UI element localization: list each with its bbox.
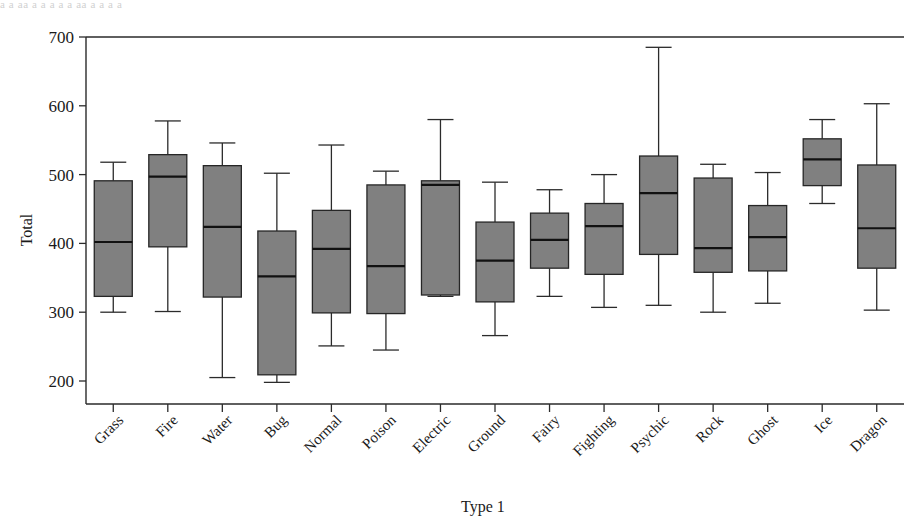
box-iqr — [258, 231, 296, 375]
x-tick-label-rock: Rock — [693, 411, 727, 445]
box-iqr — [858, 165, 896, 268]
x-tick-label-ice: Ice — [811, 412, 836, 437]
y-tick-label: 300 — [49, 303, 75, 322]
box-plot-item — [694, 164, 732, 312]
box-series — [94, 47, 895, 382]
box-iqr — [94, 181, 132, 297]
x-axis-title: Type 1 — [461, 498, 505, 516]
y-tick-label: 600 — [49, 97, 75, 116]
boxplot-canvas: 200300400500600700 GrassFireWaterBugNorm… — [0, 0, 918, 527]
x-tick-label-psychic: Psychic — [627, 412, 672, 457]
box-plot-item — [858, 104, 896, 310]
x-axis-tick-labels: GrassFireWaterBugNormalPoisonElectricGro… — [91, 411, 890, 459]
box-iqr — [421, 181, 459, 295]
box-plot-item — [312, 145, 350, 346]
x-tick-label-dragon: Dragon — [847, 411, 890, 454]
x-tick-label-ground: Ground — [464, 411, 508, 455]
x-tick-label-electric: Electric — [409, 412, 454, 457]
x-tick-label-bug: Bug — [261, 411, 290, 440]
box-iqr — [476, 222, 514, 302]
x-tick-label-normal: Normal — [301, 412, 345, 456]
box-plot-item — [367, 171, 405, 350]
box-plot-item — [476, 182, 514, 335]
box-iqr — [203, 166, 241, 297]
x-tick-label-fairy: Fairy — [529, 411, 563, 445]
y-axis-ticks — [79, 37, 86, 381]
box-iqr — [585, 203, 623, 274]
box-iqr — [367, 185, 405, 314]
y-tick-label: 400 — [49, 234, 75, 253]
box-plot-item — [94, 162, 132, 312]
y-axis-tick-labels: 200300400500600700 — [49, 28, 75, 391]
box-iqr — [640, 156, 678, 254]
box-iqr — [149, 155, 187, 247]
box-plot-item — [149, 121, 187, 312]
y-tick-label: 500 — [49, 166, 75, 185]
x-tick-label-grass: Grass — [91, 412, 127, 448]
y-axis-title: Total — [18, 213, 35, 246]
box-plot-item — [203, 143, 241, 378]
box-plot-item — [258, 173, 296, 382]
x-tick-label-poison: Poison — [359, 411, 400, 452]
box-plot-item — [421, 120, 459, 297]
y-tick-label: 200 — [49, 372, 75, 391]
box-iqr — [803, 139, 841, 186]
x-axis-ticks — [113, 404, 876, 412]
box-plot-item — [749, 173, 787, 304]
y-tick-label: 700 — [49, 28, 75, 47]
box-plot-item — [803, 120, 841, 204]
x-tick-label-fighting: Fighting — [570, 411, 618, 459]
x-tick-label-fire: Fire — [153, 412, 182, 441]
box-plot-item — [585, 175, 623, 308]
box-iqr — [312, 210, 350, 313]
box-plot-item — [640, 47, 678, 305]
x-tick-label-ghost: Ghost — [744, 411, 781, 448]
x-tick-label-water: Water — [199, 412, 235, 448]
box-plot-item — [531, 190, 569, 297]
box-iqr — [694, 178, 732, 272]
boxplot-figure: a a aa a a a a a aa a a a a 200300400500… — [0, 0, 918, 527]
